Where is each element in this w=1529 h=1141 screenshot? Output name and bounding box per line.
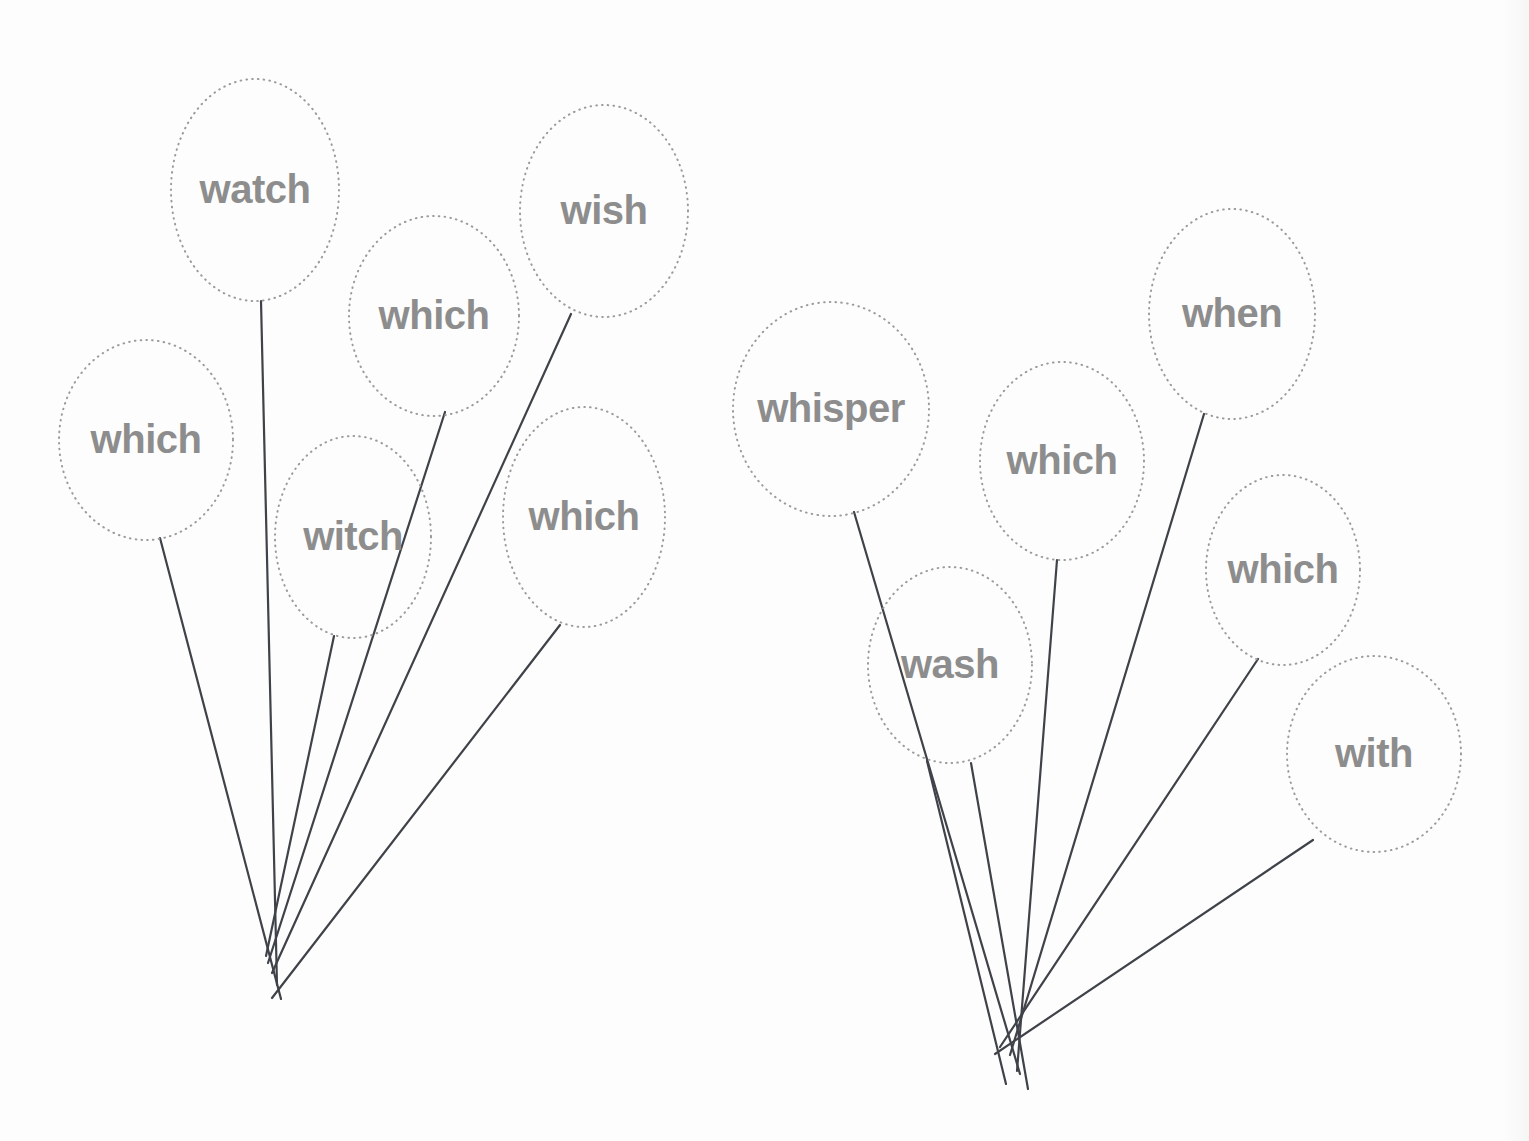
balloon-string [1010,414,1204,1055]
balloon[interactable]: watch [171,79,339,301]
balloon-word: wish [560,188,648,232]
balloon-word: which [1006,438,1118,482]
balloon-word: which [378,293,490,337]
worksheet-canvas: watchwhichwhichwitchwishwhichwhisperwash… [0,0,1529,1141]
balloon[interactable]: which [59,340,233,540]
balloon-word: wash [900,642,999,686]
balloon-string [268,412,445,963]
balloon-string [272,314,571,973]
balloon-word: with [1334,731,1413,775]
balloon-string [1017,560,1057,1071]
balloon-string [927,761,1006,1084]
balloon-string [854,512,1020,1074]
balloon[interactable]: wish [520,105,688,317]
balloon[interactable]: which [980,362,1144,560]
balloon-string [261,301,277,985]
balloon-word: when [1181,291,1282,335]
balloon-string [272,625,560,998]
balloon-string [1000,659,1258,1047]
balloon-illustration: watchwhichwhichwitchwishwhichwhisperwash… [0,0,1529,1141]
balloon[interactable]: whisper [733,302,929,516]
balloon-word: which [90,417,202,461]
balloon[interactable]: which [503,407,665,627]
balloon[interactable]: when [1149,209,1315,419]
balloon[interactable]: which [349,216,519,416]
balloon-word: witch [302,514,403,558]
balloon-word: watch [199,167,311,211]
balloon[interactable]: witch [275,436,431,638]
balloon-string [266,636,334,956]
balloon[interactable]: which [1206,475,1360,665]
right-balloon-bunch: whisperwashwhichwhenwhichwith [733,209,1461,1089]
balloon-string [160,538,281,999]
left-balloon-bunch: watchwhichwhichwitchwishwhich [59,79,688,999]
balloon[interactable]: with [1287,656,1461,852]
balloon-word: which [528,494,640,538]
balloon[interactable]: wash [868,567,1032,763]
balloon-word: which [1227,547,1339,591]
balloon-word: whisper [756,386,905,430]
